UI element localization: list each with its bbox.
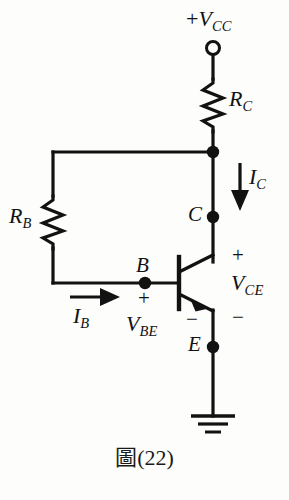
base-resistor-subscript: B xyxy=(22,215,31,231)
vce-symbol: V xyxy=(231,270,244,295)
supply-sign: + xyxy=(186,6,198,31)
supply-voltage-label: +VCC xyxy=(186,8,232,34)
supply-terminal-icon xyxy=(207,42,220,55)
base-resistor-icon xyxy=(43,196,63,249)
terminal-label-emitter: E xyxy=(188,334,201,355)
base-resistor-symbol: R xyxy=(9,203,22,228)
collector-current-label: IC xyxy=(249,166,266,192)
supply-subscript: CC xyxy=(212,18,232,34)
base-current-subscript: B xyxy=(80,315,89,331)
terminal-label-collector: C xyxy=(188,204,202,225)
base-emitter-voltage-label: VBE xyxy=(126,313,158,339)
base-resistor-label: RB xyxy=(9,205,32,231)
base-current-arrow-head-icon xyxy=(100,288,120,306)
emitter-node-dot xyxy=(207,341,219,353)
vbe-subscript: BE xyxy=(139,323,157,339)
supply-symbol: V xyxy=(198,6,211,31)
terminal-label-base: B xyxy=(136,255,149,276)
collector-resistor-label: RC xyxy=(229,88,252,114)
figure-canvas: +VCC RC RB IC IB VCE VBE B C E + − + − 圖… xyxy=(0,0,289,500)
transistor-collector-lead xyxy=(179,255,213,272)
figure-caption: 圖(22) xyxy=(0,447,289,469)
vce-plus-sign: + xyxy=(232,245,244,266)
vce-subscript: CE xyxy=(244,282,263,298)
collector-emitter-voltage-label: VCE xyxy=(231,272,264,298)
vbe-minus-sign: − xyxy=(186,309,198,330)
circuit-schematic xyxy=(0,0,289,500)
collector-current-subscript: C xyxy=(256,176,266,192)
collector-node-dot xyxy=(207,211,219,223)
collector-resistor-subscript: C xyxy=(242,98,252,114)
vbe-symbol: V xyxy=(126,311,139,336)
collector-current-arrow-head-icon xyxy=(231,190,249,211)
base-current-label: IB xyxy=(73,305,90,331)
vbe-plus-sign: + xyxy=(138,288,150,309)
collector-resistor-symbol: R xyxy=(229,86,242,111)
collector-resistor-icon xyxy=(203,79,223,132)
vce-minus-sign: − xyxy=(232,307,244,328)
